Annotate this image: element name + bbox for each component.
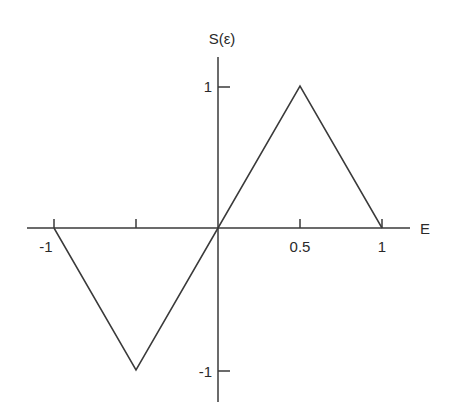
y-tick-label-1: 1 bbox=[204, 78, 212, 95]
chart: -1 0.5 1 1 -1 S(ε) E bbox=[0, 0, 455, 419]
y-axis-label: S(ε) bbox=[209, 30, 236, 47]
x-tick-label-1: 1 bbox=[378, 238, 386, 255]
x-tick-label-neg1: -1 bbox=[39, 238, 52, 255]
y-ticks bbox=[218, 87, 230, 371]
y-tick-label-neg1: -1 bbox=[199, 363, 212, 380]
x-axis-label: E bbox=[420, 220, 430, 237]
x-tick-label-0-5: 0.5 bbox=[290, 238, 311, 255]
